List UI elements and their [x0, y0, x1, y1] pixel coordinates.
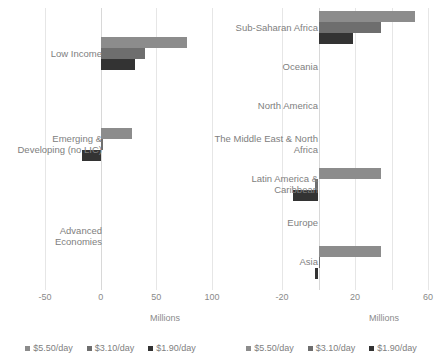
right-plot-area: Sub-Saharan AfricaOceaniaNorth AmericaTh…: [221, 0, 442, 290]
legend-swatch-icon: [87, 346, 92, 351]
category-label: Emerging & Developing (no LIC): [0, 133, 102, 155]
right-bar-rows: Sub-Saharan AfricaOceaniaNorth AmericaTh…: [221, 8, 442, 282]
left-legend: $5.50/day$3.10/day$1.90/day: [0, 341, 221, 355]
bar: [101, 37, 188, 48]
left-chart-panel: Low IncomeEmerging & Developing (no LIC)…: [0, 0, 221, 364]
category-label: Asia: [198, 256, 318, 267]
left-x-axis: -50050100: [0, 292, 221, 312]
legend-item[interactable]: $3.10/day: [308, 343, 356, 353]
legend-label: $5.50/day: [254, 343, 294, 353]
legend-swatch-icon: [308, 346, 313, 351]
bar: [319, 257, 320, 268]
legend-label: $3.10/day: [95, 343, 135, 353]
bar: [319, 168, 381, 179]
chart-category-row: Latin America & Caribbean: [221, 165, 442, 204]
category-label: Advanced Economies: [0, 225, 102, 247]
bar: [319, 11, 416, 22]
chart-category-row: The Middle East & North Africa: [221, 125, 442, 164]
chart-category-row: Low Income: [0, 8, 221, 99]
bar: [315, 268, 319, 279]
bar: [101, 59, 136, 70]
legend-label: $1.90/day: [156, 343, 196, 353]
bar: [101, 128, 132, 139]
legend-label: $3.10/day: [316, 343, 356, 353]
category-label: Sub-Saharan Africa: [198, 22, 318, 33]
legend-item[interactable]: $1.90/day: [148, 343, 196, 353]
category-label: North America: [198, 100, 318, 111]
category-label: Latin America & Caribbean: [198, 173, 318, 195]
right-axis-title: Millions: [369, 313, 399, 323]
bar: [319, 33, 354, 44]
right-x-axis: -202060: [221, 292, 442, 312]
chart-category-row: Sub-Saharan Africa: [221, 8, 442, 47]
axis-tick-label: 60: [423, 292, 433, 302]
axis-tick-label: 20: [350, 292, 360, 302]
right-chart-panel: Sub-Saharan AfricaOceaniaNorth AmericaTh…: [221, 0, 442, 364]
chart-category-row: Asia: [221, 243, 442, 282]
dual-bar-chart-figure: Low IncomeEmerging & Developing (no LIC)…: [0, 0, 442, 364]
category-label: Low Income: [0, 48, 102, 59]
bar: [319, 246, 381, 257]
legend-swatch-icon: [25, 346, 30, 351]
legend-label: $5.50/day: [33, 343, 73, 353]
chart-category-row: Advanced Economies: [0, 191, 221, 282]
left-axis-title: Millions: [150, 313, 180, 323]
axis-tick-label: 0: [98, 292, 103, 302]
legend-item[interactable]: $5.50/day: [246, 343, 294, 353]
axis-tick-label: 50: [151, 292, 161, 302]
legend-item[interactable]: $3.10/day: [87, 343, 135, 353]
category-label: The Middle East & North Africa: [198, 133, 318, 155]
chart-category-row: Europe: [221, 204, 442, 243]
legend-item[interactable]: $1.90/day: [369, 343, 417, 353]
legend-swatch-icon: [148, 346, 153, 351]
bar: [101, 48, 146, 59]
category-label: Oceania: [198, 61, 318, 72]
axis-tick-label: -20: [275, 292, 288, 302]
left-bar-rows: Low IncomeEmerging & Developing (no LIC)…: [0, 8, 221, 282]
legend-label: $1.90/day: [377, 343, 417, 353]
legend-swatch-icon: [369, 346, 374, 351]
category-label: Europe: [198, 217, 318, 228]
bar: [319, 22, 381, 33]
legend-item[interactable]: $5.50/day: [25, 343, 73, 353]
chart-category-row: Oceania: [221, 47, 442, 86]
chart-category-row: North America: [221, 86, 442, 125]
axis-tick-label: 100: [204, 292, 219, 302]
right-legend: $5.50/day$3.10/day$1.90/day: [221, 341, 442, 355]
chart-category-row: Emerging & Developing (no LIC): [0, 99, 221, 190]
left-plot-area: Low IncomeEmerging & Developing (no LIC)…: [0, 0, 221, 290]
legend-swatch-icon: [246, 346, 251, 351]
axis-tick-label: -50: [38, 292, 51, 302]
